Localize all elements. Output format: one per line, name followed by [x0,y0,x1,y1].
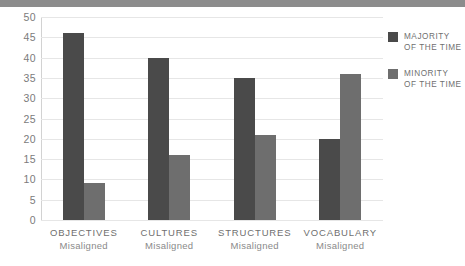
bar [234,78,255,220]
y-axis-tick-label: 50 [2,12,36,22]
y-axis-tick-label: 40 [2,53,36,63]
bar-group [148,17,190,220]
y-axis-tick-label: 30 [2,93,36,103]
legend-item: MAJORITYOF THE TIME [388,31,465,57]
bar [255,135,276,220]
x-axis-category-labels: OBJECTIVESMisalignedCULTURESMisalignedST… [41,226,383,262]
category-sublabel: Misaligned [285,239,395,253]
bar-chart: 50454035302520151050 OBJECTIVESMisaligne… [0,7,465,266]
bar-group [234,17,276,220]
bar-group [63,17,105,220]
y-axis-tick-labels: 50454035302520151050 [0,17,36,221]
bar [169,155,190,220]
legend-item: MINORITYOF THE TIME [388,68,465,94]
legend-label: MAJORITYOF THE TIME [404,31,462,53]
top-band [0,0,465,7]
y-axis-tick-label: 45 [2,32,36,42]
y-axis-tick-label: 20 [2,134,36,144]
bar [84,183,105,220]
gridline [41,220,383,221]
y-axis-tick-label: 5 [2,195,36,205]
y-axis-tick-label: 10 [2,174,36,184]
legend-swatch [388,32,398,42]
bar [340,74,361,220]
bar-group [319,17,361,220]
y-axis-tick-label: 0 [2,215,36,225]
bar [319,139,340,220]
legend-label: MINORITYOF THE TIME [404,68,462,90]
x-axis-category-label: VOCABULARYMisaligned [285,226,395,253]
bar [63,33,84,220]
chart-legend: MAJORITYOF THE TIMEMINORITYOF THE TIME [388,31,465,105]
y-axis-tick-label: 35 [2,73,36,83]
legend-swatch [388,69,398,79]
bar [148,58,169,220]
y-axis-tick-label: 25 [2,114,36,124]
y-axis-tick-label: 15 [2,154,36,164]
category-name: VOCABULARY [285,226,395,239]
plot-area [41,17,383,220]
